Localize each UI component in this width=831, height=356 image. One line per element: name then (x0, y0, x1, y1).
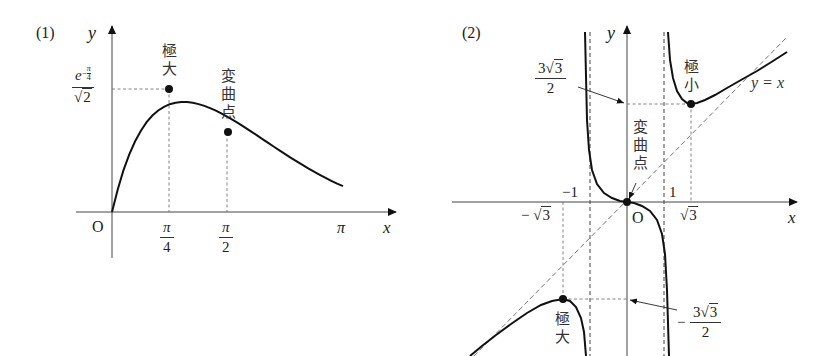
max-label-1-char: 極 (161, 42, 177, 60)
inflection-label-2-char: 点 (632, 154, 648, 172)
y-tick-neg-value-2: 3√3 2 (690, 305, 721, 340)
panel-2-graph (452, 26, 797, 356)
x-tick-neg-one: −1 (562, 185, 578, 200)
max-point-2 (559, 295, 567, 303)
x-tick-neg-sqrt3: − √3 (521, 208, 551, 223)
tick-num: π (160, 220, 174, 238)
inflection-label-1-char: 点 (220, 103, 236, 121)
inflection-label-1-char: 曲 (220, 85, 236, 103)
x-tick-pi-over-4: π 4 (160, 220, 174, 255)
min-label-2-char: 極 (683, 58, 699, 76)
inflection-point-2 (623, 198, 631, 206)
y-axis-label-2: y (607, 24, 615, 42)
max-label-2: 極 大 (554, 310, 570, 346)
panel-1-graph (76, 26, 396, 258)
x-tick-sqrt3: √3 (680, 208, 698, 223)
max-point-1 (165, 85, 173, 93)
neg-sign: − (521, 207, 529, 223)
x-tick-pi-over-2: π 2 (219, 220, 233, 255)
den: 2 (702, 323, 710, 340)
inflection-label-1: 変 曲 点 (220, 67, 236, 121)
x-axis-label-1: x (383, 219, 391, 236)
y-axis-label-1: y (88, 24, 96, 42)
sqrt-value: 3 (554, 59, 564, 76)
exp-den: 4 (87, 74, 91, 82)
y-tick-pos-value-2: 3√3 2 (535, 61, 566, 96)
max-label-2-char: 大 (554, 328, 570, 346)
origin-label-2: O (632, 210, 644, 226)
graphs-canvas (0, 0, 831, 356)
panel-2-label: (2) (462, 25, 481, 41)
origin-label-1: O (92, 219, 104, 235)
asymptote-label: y = x (751, 75, 784, 91)
min-label-2: 極 小 (683, 58, 699, 94)
y-tick-neg-sign: − (677, 315, 685, 330)
inflection-label-2-char: 曲 (632, 136, 648, 154)
x-tick-pi: π (337, 220, 345, 236)
pointer-neg-tick (630, 300, 677, 310)
sqrt-value: 3 (541, 206, 551, 223)
inflection-point-1 (224, 128, 232, 136)
inflection-label-1-char: 変 (220, 67, 236, 85)
den: 2 (547, 79, 555, 96)
inflection-label-2-char: 変 (632, 118, 648, 136)
panel-1-label: (1) (36, 25, 55, 41)
pointer-inflection (629, 183, 636, 199)
tick-den: 2 (222, 238, 230, 255)
sqrt-value: 3 (688, 206, 698, 223)
y-tick-max-value-1: e−π4 √2 (72, 68, 94, 105)
x-axis-label-2: x (788, 209, 796, 226)
max-label-1: 極 大 (161, 42, 177, 78)
inflection-label-2: 変 曲 点 (632, 118, 648, 172)
pointer-pos-tick (578, 87, 624, 103)
tick-den: 4 (163, 238, 171, 255)
min-point-2 (687, 100, 695, 108)
sqrt-value: 3 (709, 303, 719, 320)
max-label-2-char: 極 (554, 310, 570, 328)
coef: 3 (693, 304, 701, 320)
tick-num: π (219, 220, 233, 238)
sqrt-value: 2 (82, 88, 92, 105)
exp-base: e (75, 67, 82, 83)
min-label-2-char: 小 (683, 76, 699, 94)
x-tick-one: 1 (669, 185, 677, 200)
max-label-1-char: 大 (161, 60, 177, 78)
coef: 3 (538, 60, 546, 76)
